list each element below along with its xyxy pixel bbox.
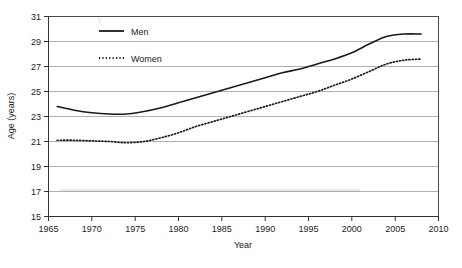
scan-smudge — [60, 189, 360, 191]
y-label-31: 31 — [31, 12, 41, 22]
x-axis-title: Year — [234, 240, 252, 250]
y-label-27: 27 — [31, 62, 41, 72]
x-label-1965: 1965 — [38, 224, 58, 234]
legend-label-men: Men — [131, 27, 149, 37]
y-label-19: 19 — [31, 162, 41, 172]
line-chart: 31 29 27 25 23 21 19 17 15 1965 1970 — [0, 0, 462, 268]
y-label-29: 29 — [31, 37, 41, 47]
y-label-21: 21 — [31, 137, 41, 147]
chart-container: 31 29 27 25 23 21 19 17 15 1965 1970 — [0, 0, 462, 268]
y-axis-title: Age (years) — [6, 93, 16, 140]
y-label-15: 15 — [31, 212, 41, 222]
x-label-1970: 1970 — [82, 224, 102, 234]
y-label-17: 17 — [31, 187, 41, 197]
y-label-25: 25 — [31, 87, 41, 97]
y-axis-labels: 31 29 27 25 23 21 19 17 15 — [31, 12, 41, 222]
x-label-2000: 2000 — [342, 224, 362, 234]
legend-label-women: Women — [131, 54, 162, 64]
x-label-2010: 2010 — [428, 224, 448, 234]
x-label-1985: 1985 — [212, 224, 232, 234]
x-label-1990: 1990 — [255, 224, 275, 234]
x-label-2005: 2005 — [385, 224, 405, 234]
x-label-1995: 1995 — [298, 224, 318, 234]
x-label-1975: 1975 — [125, 224, 145, 234]
y-label-23: 23 — [31, 112, 41, 122]
x-label-1980: 1980 — [168, 224, 188, 234]
